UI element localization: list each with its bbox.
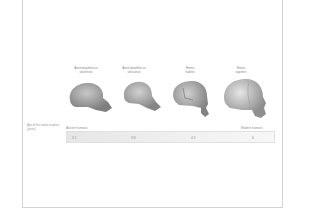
- species-label-2: Australopithecusafricanus: [104, 66, 164, 74]
- bar-value-2: 3.8: [131, 136, 135, 140]
- gradient-bar: 3.1 3.8 4.5 6: [66, 131, 275, 143]
- bar-value-1: 3.1: [72, 136, 76, 140]
- bar-end-label: Modern humans: [241, 126, 263, 130]
- bar-start-label: Ancient humans: [66, 126, 88, 130]
- bar-value-3: 4.5: [191, 136, 195, 140]
- skull-africanus-image: [121, 80, 163, 114]
- skull-sapiens-image: [222, 78, 270, 120]
- row-label: Age of first molar eruption (years): [27, 124, 61, 131]
- skull-habilis-image: [171, 80, 215, 118]
- bar-value-4: 6: [252, 136, 254, 140]
- species-label-4: Homosapiens: [211, 66, 271, 74]
- skull-afarensis-image: [66, 80, 114, 116]
